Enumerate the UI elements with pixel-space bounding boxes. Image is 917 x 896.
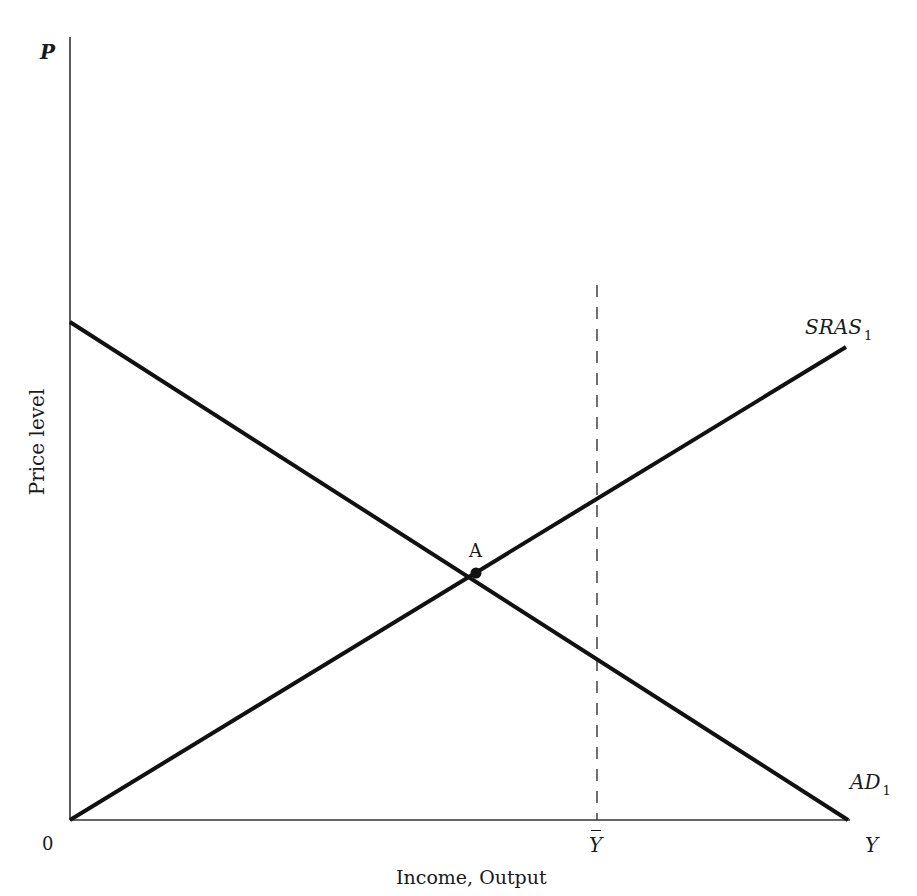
ad-as-diagram (0, 0, 917, 896)
potential-output-label: Y (589, 833, 602, 857)
ad1-label: AD1 (850, 770, 891, 794)
sras-name: SRAS (805, 315, 862, 339)
point-a-label: A (469, 540, 482, 561)
sras1-curve (70, 347, 846, 820)
equilibrium-point-a (471, 568, 482, 579)
y-axis-symbol: P (40, 40, 55, 64)
sras1-label: SRAS1 (805, 315, 872, 339)
ad-name: AD (850, 770, 880, 794)
y-axis-title: Price level (25, 387, 49, 497)
ad1-curve (70, 322, 848, 820)
ad-subscript: 1 (882, 783, 890, 798)
x-axis-symbol: Y (865, 833, 878, 857)
sras-subscript: 1 (864, 328, 872, 343)
origin-label: 0 (42, 833, 53, 854)
y-bar-symbol: Y (589, 833, 602, 857)
x-axis-title: Income, Output (396, 866, 547, 888)
